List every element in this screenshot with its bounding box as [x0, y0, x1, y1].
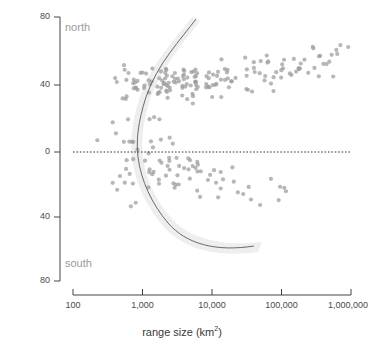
data-point [144, 71, 148, 75]
data-point [188, 158, 192, 162]
data-point [191, 94, 195, 98]
data-point [199, 169, 203, 173]
x-axis [73, 289, 351, 295]
data-point [280, 62, 284, 66]
data-point [122, 63, 126, 67]
data-point [212, 168, 216, 172]
data-point [152, 170, 156, 174]
data-point [115, 188, 119, 192]
data-point [171, 142, 175, 146]
data-point [206, 178, 210, 182]
data-point [164, 174, 168, 178]
data-point [191, 101, 195, 105]
data-point [166, 164, 170, 168]
data-point [247, 185, 251, 189]
data-point [279, 68, 283, 72]
data-point [177, 164, 181, 168]
data-point [252, 60, 256, 64]
data-point [150, 66, 154, 70]
data-point [126, 71, 130, 75]
data-point [210, 95, 214, 99]
data-point [219, 57, 223, 61]
data-point [289, 73, 293, 77]
data-point [152, 115, 156, 119]
data-point [271, 75, 275, 79]
data-point [95, 138, 99, 142]
data-point [134, 201, 138, 205]
data-point [147, 117, 151, 121]
data-point [221, 177, 225, 181]
data-point [282, 58, 286, 62]
y-tick-label-0: 0 [26, 146, 50, 156]
data-point [227, 85, 231, 89]
data-point [159, 86, 163, 90]
x-tick-label-1000000: 1,000,000 [328, 300, 368, 310]
data-point [265, 53, 269, 57]
data-point [219, 186, 223, 190]
data-point [219, 170, 223, 174]
data-point [125, 158, 129, 162]
data-point [214, 181, 218, 185]
data-point [253, 70, 257, 74]
data-point [335, 52, 339, 56]
data-point [114, 131, 118, 135]
data-point [174, 182, 178, 186]
data-point [334, 48, 338, 52]
data-point [215, 74, 219, 78]
data-point [330, 53, 334, 57]
data-point [123, 68, 127, 72]
region-label-south: south [65, 257, 92, 269]
data-point [259, 59, 263, 63]
data-point [182, 166, 186, 170]
data-point [262, 78, 266, 82]
x-tick-label-100: 100 [65, 300, 80, 310]
data-point [167, 168, 171, 172]
data-point [223, 67, 227, 71]
data-point [111, 120, 115, 124]
data-point [249, 197, 253, 201]
data-point [136, 88, 140, 92]
data-point [126, 117, 130, 121]
data-point [129, 204, 133, 208]
data-point [156, 91, 160, 95]
data-point [115, 80, 119, 84]
data-point [189, 83, 193, 87]
x-axis-title-close: ) [218, 326, 222, 338]
data-point [241, 192, 245, 196]
data-point [165, 84, 169, 88]
data-point [124, 97, 128, 101]
data-point [177, 79, 181, 83]
data-point [258, 203, 262, 207]
x-tick-label-100000: 100,000 [265, 300, 298, 310]
data-point [265, 60, 269, 64]
data-point [325, 62, 329, 66]
data-point [185, 76, 189, 80]
data-point [216, 195, 220, 199]
data-point [269, 81, 273, 85]
data-point [157, 117, 161, 121]
data-point [159, 69, 163, 73]
data-point [236, 190, 240, 194]
data-point [226, 76, 230, 80]
data-point [277, 198, 281, 202]
data-point [198, 195, 202, 199]
data-point [174, 156, 178, 160]
data-point [118, 174, 122, 178]
data-point [142, 84, 146, 88]
data-point [263, 74, 267, 78]
data-point [312, 66, 316, 70]
data-point [164, 68, 168, 72]
data-point [132, 86, 136, 90]
data-point [128, 172, 132, 176]
data-point [271, 89, 275, 93]
data-point [206, 85, 210, 89]
data-point [159, 161, 163, 165]
data-point [167, 159, 171, 163]
data-point [230, 165, 234, 169]
data-point [188, 177, 192, 181]
data-point [232, 180, 236, 184]
data-point [250, 89, 254, 93]
data-point [159, 138, 163, 142]
data-point [317, 74, 321, 78]
y-tick-label-80-south: 80 [26, 275, 50, 285]
